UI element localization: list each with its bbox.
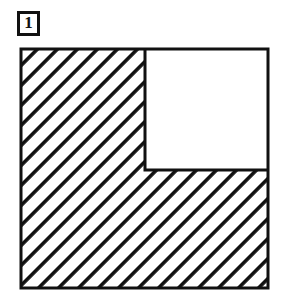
figure-number-label: 1 <box>24 14 33 31</box>
geometry-diagram <box>18 46 272 292</box>
geometry-diagram-svg <box>18 46 272 292</box>
figure-number-box: 1 <box>17 11 40 36</box>
figure-page: 1 <box>0 0 286 303</box>
